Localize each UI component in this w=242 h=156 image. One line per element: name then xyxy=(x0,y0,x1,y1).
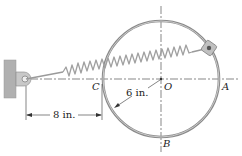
label-c: C xyxy=(92,82,100,92)
label-a: A xyxy=(222,82,229,92)
dimension-arrow-left xyxy=(26,113,32,117)
wall-support xyxy=(4,60,16,98)
offset-dimension-label: 8 in. xyxy=(53,110,75,120)
radius-dimension-label: 6 in. xyxy=(126,88,148,98)
radius-arrowhead xyxy=(114,103,120,108)
radius-leader xyxy=(148,80,160,88)
spring-rod-left xyxy=(26,72,63,79)
center-point xyxy=(160,78,162,80)
collar-pin xyxy=(207,46,211,50)
label-b: B xyxy=(163,139,170,149)
label-o: O xyxy=(164,82,172,92)
spring xyxy=(63,45,192,76)
diagram-canvas xyxy=(0,0,242,156)
dimension-arrow-right xyxy=(96,113,102,117)
